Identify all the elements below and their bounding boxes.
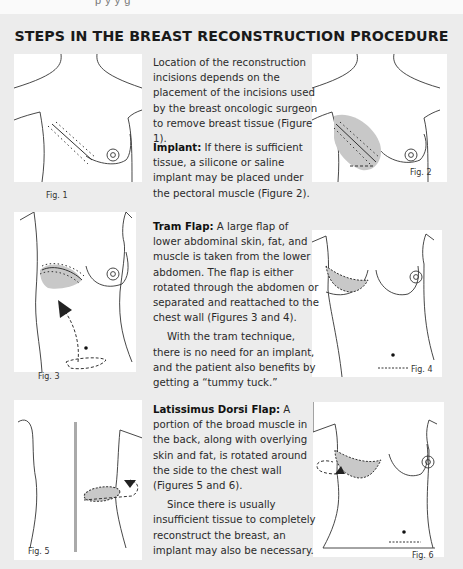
figure-label: Fig. 5 <box>28 547 50 556</box>
figure-1: Fig. 1 <box>14 54 142 182</box>
tram-section: Tram Flap: A large flap of lower abdomin… <box>153 219 319 398</box>
navel-icon <box>402 530 406 534</box>
figure-label: Fig. 6 <box>412 551 434 560</box>
figure-2: Fig. 2 <box>312 54 447 182</box>
figure-label: Fig. 3 <box>38 372 60 381</box>
spine-line-icon <box>74 422 77 552</box>
rotation-path-icon <box>64 310 78 362</box>
latissimus-result-illustration <box>313 402 444 557</box>
flap-shade-icon <box>326 266 368 292</box>
latissimus-back-illustration <box>14 400 142 560</box>
torso-incision-illustration <box>14 54 142 182</box>
figure-5: Fig. 5 <box>14 400 142 560</box>
tram-flap-rotation-illustration <box>14 212 136 372</box>
incision-line-icon <box>52 124 92 160</box>
figure-label: Fig. 4 <box>411 365 433 374</box>
latissimus-heading: Latissimus Dorsi Flap: <box>153 404 280 415</box>
cropped-top-strip: p y y g <box>0 0 463 14</box>
tram-heading: Tram Flap: <box>153 221 214 232</box>
figure-label: Fig. 1 <box>46 191 68 200</box>
tram-flap-result-illustration <box>312 230 442 377</box>
muscle-flap-icon <box>83 485 121 504</box>
implant-section: Implant: If there is sufficient tissue, … <box>153 140 319 209</box>
navel-icon <box>391 353 395 357</box>
cropped-previous-text: p y y g <box>95 0 131 6</box>
tram-body: A large flap of lower abdominal skin, fa… <box>153 221 319 323</box>
rotation-path-icon <box>317 461 337 474</box>
tram-paragraph-2: With the tram technique, there is no nee… <box>153 329 319 390</box>
figure-6: Fig. 6 <box>313 402 444 557</box>
latissimus-section: Latissimus Dorsi Flap: A portion of the … <box>153 402 319 566</box>
navel-icon <box>84 346 88 350</box>
latissimus-paragraph-2: Since there is usually insufficient tiss… <box>153 497 319 558</box>
figure-label: Fig. 2 <box>410 168 432 177</box>
figure-3: Fig. 3 <box>14 212 136 372</box>
arrow-head-icon <box>58 300 72 318</box>
figure-4: Fig. 4 <box>312 230 442 377</box>
intro-text: Location of the reconstruction incisions… <box>153 55 319 146</box>
implant-heading: Implant: <box>153 142 201 153</box>
implant-illustration <box>312 54 447 182</box>
arrow-head-icon <box>124 480 136 488</box>
latissimus-body: A portion of the broad muscle in the bac… <box>153 404 307 491</box>
page-title: STEPS IN THE BREAST RECONSTRUCTION PROCE… <box>0 28 463 44</box>
